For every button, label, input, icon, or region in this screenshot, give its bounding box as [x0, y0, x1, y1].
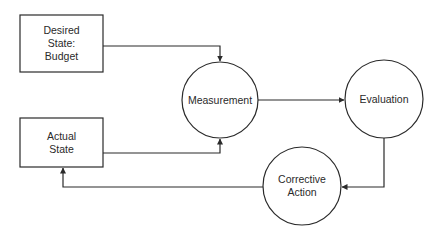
corrective-action-label: Corrective Action [263, 147, 341, 225]
desired-state-label: Desired State: Budget [20, 15, 103, 72]
measurement-label: Measurement [182, 62, 258, 138]
edge-actual-to-measurement [103, 139, 220, 153]
edge-desired-to-measurement [103, 46, 220, 61]
evaluation-label: Evaluation [345, 60, 423, 138]
edge-evaluation-to-corrective [342, 138, 384, 187]
edge-corrective-to-actual [63, 168, 263, 187]
actual-state-label: Actual State [20, 118, 103, 167]
